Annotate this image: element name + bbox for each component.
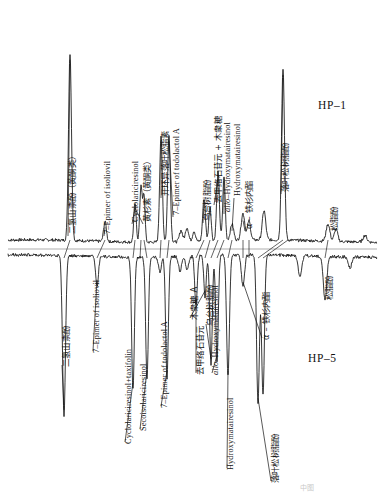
- peak-label-lariciresinol-cn: 落叶松树脂酚: [281, 143, 290, 192]
- peak-label-7-epimer-of-isoliovil-hp5: 7–Epimer of isoliovil: [93, 280, 101, 353]
- peak-label-hydroxymatairesinol-hp5: Hydroxymatairesinol: [227, 398, 235, 470]
- italic-stereo-prefix: allo: [223, 199, 232, 212]
- peak-label-7-epimer-of-todolactol-a-hp5: 7–Epimer of todolactol A: [161, 321, 169, 408]
- peak-label-lariciresinol-cn-hp5: 落叶松树脂酚: [271, 434, 280, 483]
- peak-label-allo-hydroxymatairesinol: allo–Hydroxymatairesinol: [224, 122, 232, 212]
- peak-label-cyclolariciresinol-taxifolin: Cyclolariciresinol+taxifolin: [125, 349, 133, 444]
- peak-label-nortrachelogenin-plus-xylose: 去甲络石苷元 + 木衆糖: [214, 116, 223, 203]
- peak-label-7-epimer-of-isoliovil: 7–Epimer of isoliovil: [104, 161, 112, 234]
- peak-label-hydroxymatairesinol: Hydroxymatairesinol: [234, 124, 242, 196]
- peak-label-alpha-conidendrin-lactone: α – 铁杉内酯: [245, 180, 254, 229]
- peak-label-allo-hydroxymatairesinol-hp5: allo–Hydroxymatairesinol: [212, 285, 220, 375]
- peak-label-pinoresinol-cn-hp5: 松脂酚: [325, 275, 334, 300]
- peak-label-secoisolariciresinol-cn: 开环异落叶松脂素: [161, 130, 170, 196]
- panel-tag-hp1: HP–1: [318, 99, 347, 111]
- peak-label-secoisolariciresinol: Secoisolariciresinol: [140, 364, 148, 431]
- peak-label-xylose-a: 木衆糖 A: [190, 287, 199, 320]
- peak-label-matairesinol-cn: 乌台树脂酚: [203, 180, 212, 221]
- chromatogram-traces: [0, 0, 384, 495]
- figure-footnote: 中图: [300, 482, 314, 492]
- peak-label-cyclolariciresinol: Cyclolariciresinol: [132, 161, 140, 222]
- peak-label-dihydrokaempferol: 二氢山柰酚: [62, 326, 71, 367]
- peak-label-nortrachelogenin: 去甲络石苷元: [196, 326, 205, 375]
- peak-label-dihydrokaempferol-flavonoid: 二氢山柰酚（黄酮类）: [68, 152, 77, 234]
- label-leader-lines: [0, 0, 384, 495]
- peak-label-7-epimer-of-todolactol-a: 7–Epimer of todolactol A: [173, 128, 181, 215]
- panel-tag-hp5: HP–5: [308, 352, 337, 364]
- chromatogram-figure: 二氢山柰酚（黄酮类）7–Epimer of isoliovilCyclolari…: [0, 0, 384, 495]
- italic-stereo-prefix: allo: [211, 362, 220, 375]
- peak-label-pinoresinol-cn: 松脂酚: [330, 206, 339, 231]
- peak-label-taxifolin-flavonoid: 黄杉素（黄酮类）: [143, 156, 152, 222]
- peak-label-alpha-conidendrin-lactone-hp5: α – 铁杉内酯: [262, 291, 271, 340]
